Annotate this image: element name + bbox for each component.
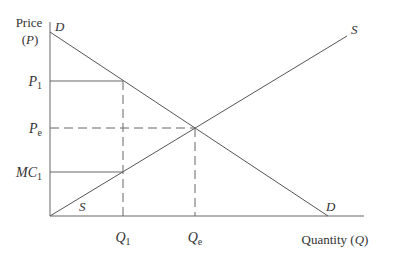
supply-curve [50, 36, 347, 216]
demand-label-bottom: D [325, 199, 336, 214]
y-axis-label-symbol: (P) [22, 32, 39, 47]
x-tick-q1: Q1 [115, 230, 130, 247]
y-tick-p1: P1 [27, 74, 42, 91]
supply-label-bottom: S [79, 199, 86, 214]
x-tick-qe: Qe [188, 230, 203, 247]
supply-label-top: S [351, 22, 358, 37]
y-tick-pe: Pe [28, 121, 43, 138]
x-axis-label: Quantity (Q) [302, 232, 369, 247]
y-tick-mc1: MC1 [15, 165, 42, 182]
demand-curve [50, 32, 328, 216]
demand-label-top: D [54, 19, 65, 34]
supply-demand-diagram: Price (P) D D S S P1 Pe MC1 Q1 Qe Quanti… [0, 0, 418, 254]
y-axis-label: Price [16, 15, 43, 30]
